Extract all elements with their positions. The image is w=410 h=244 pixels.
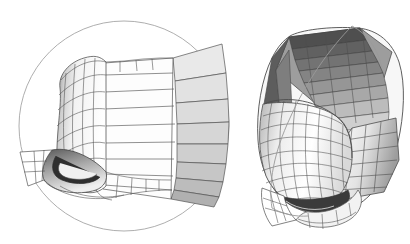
figure-canvas: Two rendered views of a shaded wireframe… bbox=[0, 0, 410, 244]
left-view-group bbox=[19, 21, 229, 231]
mid-body-panel bbox=[103, 58, 175, 199]
figure-svg bbox=[0, 0, 410, 244]
right-view-group bbox=[258, 26, 404, 229]
skirt-bands bbox=[171, 44, 229, 207]
